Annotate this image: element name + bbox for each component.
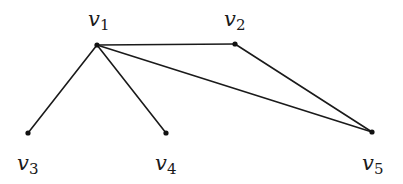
graph-diagram: v1v2v3v4v5 — [0, 0, 403, 184]
node-v1 — [94, 42, 99, 47]
label-base: v — [362, 151, 374, 175]
label-subscript: 3 — [29, 160, 39, 178]
edge-v1-v2 — [97, 44, 235, 45]
node-v3 — [25, 130, 30, 135]
label-v5: v5 — [362, 151, 383, 178]
label-v2: v2 — [224, 7, 245, 34]
labels-layer: v1v2v3v4v5 — [17, 7, 383, 178]
label-base: v — [88, 7, 100, 31]
label-base: v — [155, 151, 167, 175]
label-v4: v4 — [155, 151, 176, 178]
label-base: v — [17, 151, 29, 175]
label-v1: v1 — [88, 7, 109, 34]
label-subscript: 2 — [236, 16, 246, 34]
label-subscript: 4 — [167, 160, 177, 178]
edges-layer — [28, 44, 372, 133]
label-base: v — [224, 7, 236, 31]
node-v5 — [369, 129, 374, 134]
label-subscript: 1 — [100, 16, 110, 34]
nodes-layer — [25, 41, 374, 135]
edge-v1-v4 — [97, 45, 166, 133]
node-v2 — [232, 41, 237, 46]
edge-v1-v3 — [28, 45, 97, 133]
node-v4 — [163, 130, 168, 135]
edge-v1-v5 — [97, 45, 372, 132]
edge-v2-v5 — [235, 44, 372, 132]
label-v3: v3 — [17, 151, 38, 178]
label-subscript: 5 — [374, 160, 384, 178]
